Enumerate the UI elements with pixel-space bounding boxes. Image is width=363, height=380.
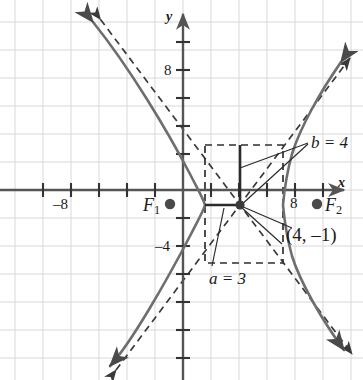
a-leader bbox=[212, 208, 224, 266]
b-leader-lower bbox=[240, 144, 308, 206]
focus-1-marker bbox=[165, 199, 175, 209]
x-tick-label-8: 8 bbox=[290, 196, 298, 211]
focus-2-subscript: 2 bbox=[336, 203, 342, 217]
semi-axis-b-label: b = 4 bbox=[311, 134, 348, 151]
plot-points bbox=[165, 199, 322, 210]
asymptotes bbox=[101, 20, 353, 371]
focus-1-letter: F bbox=[143, 195, 154, 215]
focus-1-subscript: 1 bbox=[154, 203, 160, 217]
y-tick-label-neg4: –4 bbox=[155, 239, 170, 254]
focus-2-marker bbox=[312, 199, 322, 209]
hyperbola-figure: –8 8 8 –4 x y F1 F2 b = 4 a = 3 (4, –1) bbox=[0, 0, 363, 380]
y-axis-label: y bbox=[166, 10, 172, 24]
focus-1-label: F1 bbox=[143, 196, 160, 217]
point-leader-lower bbox=[241, 207, 282, 244]
focus-2-letter: F bbox=[325, 195, 336, 215]
x-tick-label-neg8: –8 bbox=[53, 197, 68, 212]
center-point-label: (4, –1) bbox=[286, 225, 337, 244]
graph-canvas bbox=[0, 0, 363, 380]
b-leader-upper bbox=[240, 143, 308, 168]
center-point-marker bbox=[235, 200, 244, 209]
y-tick-label-8: 8 bbox=[164, 63, 172, 78]
focus-2-label: F2 bbox=[325, 196, 342, 217]
x-axis-label: x bbox=[338, 176, 345, 190]
semi-axis-a-label: a = 3 bbox=[209, 270, 246, 287]
hyperbola-left-branch bbox=[93, 22, 205, 366]
hyperbola-curve bbox=[93, 22, 344, 366]
